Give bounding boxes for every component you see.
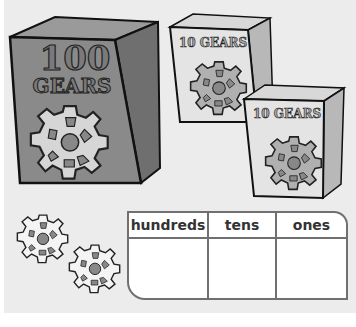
place-value-table: hundreds tens ones [127,211,348,300]
cell-tens[interactable] [209,239,277,298]
svg-text:100: 100 [40,38,111,78]
gear-icon [31,106,108,179]
loose-gear-icon-2 [69,245,119,293]
cell-ones[interactable] [277,239,346,298]
header-hundreds: hundreds [129,213,209,239]
gear-icon [266,137,322,190]
svg-text:10 GEARS: 10 GEARS [179,36,247,50]
header-ones: ones [277,213,346,239]
ten-gears-box-2: 10 GEARS [244,85,344,198]
header-tens: tens [209,213,277,239]
gear-icon [191,62,247,115]
hundred-gears-box: 100 GEARS [10,17,160,183]
svg-text:GEARS: GEARS [33,74,112,98]
cell-hundreds[interactable] [129,239,209,298]
svg-text:10 GEARS: 10 GEARS [253,107,321,121]
loose-gear-icon-1 [17,215,67,263]
